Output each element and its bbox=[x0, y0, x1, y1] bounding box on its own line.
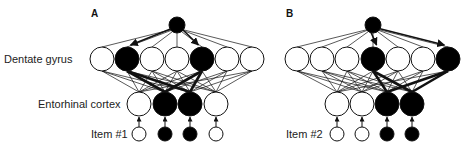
interneuron-edge bbox=[373, 28, 448, 47]
dentate-gyrus-cell-a-3 bbox=[140, 47, 164, 71]
entorhinal-cell-b-1 bbox=[325, 92, 349, 116]
item-2-label: Item #2 bbox=[286, 128, 323, 140]
entorhinal-cell-a-1 bbox=[127, 92, 151, 116]
dentate-gyrus-cell-b-5 bbox=[386, 47, 410, 71]
entorhinal-cell-b-4 bbox=[400, 92, 424, 116]
dentate-gyrus-label: Dentate gyrus bbox=[4, 53, 73, 65]
dentate-gyrus-cell-b-2 bbox=[310, 47, 334, 71]
interneuron-edge bbox=[322, 28, 373, 47]
entorhinal-cortex-label: Entorhinal cortex bbox=[38, 98, 121, 110]
item-input-b-4 bbox=[405, 127, 419, 141]
panel-b-label: B bbox=[286, 8, 293, 19]
entorhinal-cell-a-4 bbox=[204, 92, 228, 116]
item-input-a-3 bbox=[183, 127, 197, 141]
item-input-a-2 bbox=[158, 127, 172, 141]
entorhinal-cell-b-2 bbox=[350, 92, 374, 116]
dentate-gyrus-cell-a-2 bbox=[115, 47, 139, 71]
interneuron-edge bbox=[297, 28, 373, 47]
dentate-gyrus-cell-b-7 bbox=[436, 47, 460, 71]
feedback-arrow bbox=[131, 28, 173, 45]
dentate-gyrus-cell-b-3 bbox=[335, 47, 359, 71]
labels-layer: Dentate gyrus Entorhinal cortex A B Item… bbox=[4, 8, 323, 140]
item-input-b-1 bbox=[330, 127, 344, 141]
dentate-gyrus-network-figure: Dentate gyrus Entorhinal cortex A B Item… bbox=[0, 0, 473, 150]
interneuron-node-b bbox=[365, 17, 381, 33]
entorhinal-cell-a-2 bbox=[153, 92, 177, 116]
dentate-gyrus-cell-a-7 bbox=[240, 47, 264, 71]
item-input-a-1 bbox=[132, 127, 146, 141]
item-input-b-3 bbox=[380, 127, 394, 141]
dentate-gyrus-cell-a-1 bbox=[90, 47, 114, 71]
interneuron-edge bbox=[177, 28, 252, 47]
dentate-gyrus-cell-b-4 bbox=[361, 47, 385, 71]
interneuron-node-a bbox=[169, 17, 185, 33]
dentate-gyrus-cell-a-6 bbox=[215, 47, 239, 71]
dentate-gyrus-cell-a-4 bbox=[165, 47, 189, 71]
item-1-label: Item #1 bbox=[91, 128, 128, 140]
dentate-gyrus-cell-b-1 bbox=[285, 47, 309, 71]
item-input-b-2 bbox=[355, 127, 369, 141]
entorhinal-cell-b-3 bbox=[375, 92, 399, 116]
feedback-arrow bbox=[181, 28, 198, 45]
panel-a-label: A bbox=[91, 8, 98, 19]
dentate-gyrus-cell-b-6 bbox=[411, 47, 435, 71]
entorhinal-cell-a-3 bbox=[178, 92, 202, 116]
item-input-a-4 bbox=[209, 127, 223, 141]
dentate-gyrus-cell-a-5 bbox=[190, 47, 214, 71]
